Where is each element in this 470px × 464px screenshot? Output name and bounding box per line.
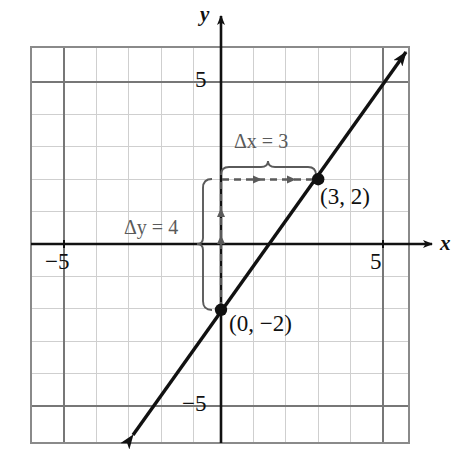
x-tick-label-5: 5: [370, 250, 382, 273]
point-label-0-neg2: (0, −2): [229, 312, 292, 335]
delta-x-brace: [221, 161, 316, 175]
delta-y-annotation-label: Δy = 4: [124, 217, 178, 237]
delta-x-annotation-label: Δx = 3: [234, 131, 288, 151]
slope-graph-figure: y x 5 −5 −5 5 (3, 2) (0, −2) Δx = 3 Δy =…: [0, 0, 470, 464]
coordinate-plane: [0, 0, 470, 464]
y-tick-label-neg5: −5: [182, 392, 206, 415]
point-0-neg2: [215, 304, 227, 316]
x-axis-label: x: [440, 233, 451, 254]
y-tick-label-5: 5: [195, 68, 207, 91]
y-axis-label: y: [200, 4, 209, 25]
x-tick-label-neg5: −5: [45, 250, 69, 273]
point-label-3-2: (3, 2): [320, 185, 370, 208]
